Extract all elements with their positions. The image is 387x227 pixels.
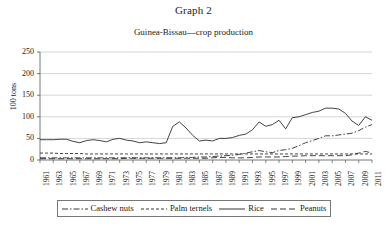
y-tick-label: 0 <box>10 156 34 164</box>
x-tick-label: 1989 <box>229 171 237 186</box>
y-tick-label: 250 <box>10 48 34 56</box>
x-tick-label: 1977 <box>149 171 157 186</box>
series-line-palm-ternels <box>40 153 372 154</box>
x-tick-label: 1999 <box>295 171 303 186</box>
legend-item[interactable]: Palm ternels <box>141 204 212 213</box>
cashew-nuts-key <box>62 205 88 213</box>
chart-legend: Cashew nutsPalm ternelsRicePeanuts <box>57 200 331 217</box>
axis-lines <box>37 52 372 163</box>
x-tick-label: 2011 <box>375 171 383 186</box>
x-tick-label: 2005 <box>335 171 343 186</box>
x-tick-label: 1963 <box>56 171 64 186</box>
x-tick-label: 1997 <box>282 171 290 186</box>
series-line-cashew-nuts <box>40 125 372 158</box>
x-tick-label: 2003 <box>322 171 330 186</box>
plot-area <box>0 0 387 227</box>
x-tick-label: 1965 <box>70 171 78 186</box>
legend-label: Cashew nuts <box>91 204 134 213</box>
chart-figure: Graph 2 Guinea-Bissau—crop production 10… <box>0 0 387 227</box>
x-tick-label: 1969 <box>96 171 104 186</box>
x-tick-label: 1983 <box>189 171 197 186</box>
legend-label: Rice <box>248 204 264 213</box>
peanuts-key <box>271 205 297 213</box>
legend-item[interactable]: Rice <box>219 204 264 213</box>
x-tick-label: 1971 <box>109 171 117 186</box>
x-tick-label: 1987 <box>216 171 224 186</box>
y-tick-label: 200 <box>10 70 34 78</box>
x-tick-label: 1975 <box>136 171 144 186</box>
x-tick-label: 2001 <box>309 171 317 186</box>
x-tick-label: 2007 <box>348 171 356 186</box>
x-tick-label: 1993 <box>255 171 263 186</box>
x-tick-label: 1961 <box>43 171 51 186</box>
data-series <box>40 108 372 159</box>
x-tick-label: 1995 <box>269 171 277 186</box>
x-tick-label: 1981 <box>176 171 184 186</box>
legend-label: Palm ternels <box>170 204 212 213</box>
legend-item[interactable]: Peanuts <box>271 204 326 213</box>
y-tick-label: 100 <box>10 113 34 121</box>
legend-item[interactable]: Cashew nuts <box>62 204 134 213</box>
palm-ternels-key <box>141 205 167 213</box>
x-tick-label: 1973 <box>123 171 131 186</box>
x-tick-label: 1985 <box>202 171 210 186</box>
legend-label: Peanuts <box>300 204 326 213</box>
y-tick-label: 50 <box>10 134 34 142</box>
rice-key <box>219 205 245 213</box>
x-tick-label: 2009 <box>362 171 370 186</box>
x-tick-label: 1979 <box>163 171 171 186</box>
gridlines <box>40 52 372 160</box>
y-tick-label: 150 <box>10 91 34 99</box>
x-tick-label: 1991 <box>242 171 250 186</box>
x-tick-label: 1967 <box>83 171 91 186</box>
